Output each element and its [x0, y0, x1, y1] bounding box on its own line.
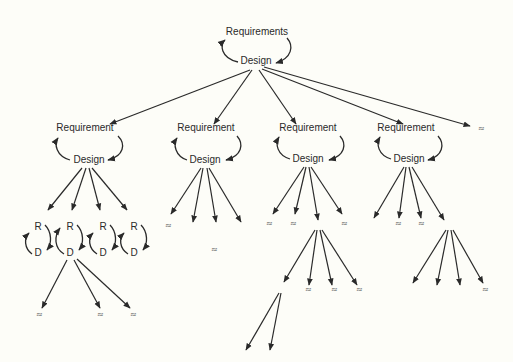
continuation-icon: ≈ [97, 310, 104, 319]
small-cycle-4: R D [121, 221, 147, 258]
node-requirement-label: Requirement [279, 122, 336, 133]
svg-text:R: R [130, 221, 137, 232]
node-design-label: Design [292, 153, 323, 164]
root-node: Requirements Design [222, 26, 291, 66]
node-design-label: Design [189, 154, 220, 165]
svg-text:D: D [99, 247, 106, 258]
continuation-icon: ≈ [395, 219, 402, 228]
cycle-arrow-right-icon [276, 38, 291, 63]
node-design-label: Design [73, 154, 104, 165]
continuation-icon: ≈ [478, 124, 485, 133]
svg-text:D: D [130, 247, 137, 258]
level2-node-2: Requirement Design [171, 122, 241, 222]
continuation-icon: ≈ [418, 219, 425, 228]
small-cycle-2: R D [56, 221, 83, 258]
continuation-icon: ≈ [290, 219, 297, 228]
cycle2-edges [42, 259, 130, 308]
continuation-icon: ≈ [331, 285, 338, 294]
continuation-icon: ≈ [266, 219, 273, 228]
root-requirements-label: Requirements [226, 26, 288, 37]
node3-sub-edges [284, 230, 357, 285]
deep-edges [246, 293, 281, 350]
cycle-arrow-left-icon [222, 40, 238, 62]
continuation-icon: ≈ [36, 310, 43, 319]
level2-node-1: Requirement Design [48, 122, 127, 210]
node4-sub-edges [413, 230, 483, 285]
node-requirement-label: Requirement [377, 122, 434, 133]
continuation-icon: ≈ [341, 219, 348, 228]
svg-text:R: R [99, 221, 106, 232]
level2-node-4: Requirement Design [374, 122, 444, 220]
root-design-label: Design [240, 55, 271, 66]
small-cycle-3: R D [90, 221, 116, 258]
small-cycle-1: R D [26, 221, 51, 258]
node-requirement-label: Requirement [56, 122, 113, 133]
svg-text:R: R [34, 221, 41, 232]
svg-text:D: D [34, 247, 41, 258]
root-edges [110, 67, 470, 126]
continuation-icon: ≈ [211, 245, 218, 254]
continuation-icon: ≈ [356, 285, 363, 294]
requirements-design-tree: Requirements Design ≈ Requirement Design… [0, 0, 513, 362]
svg-text:D: D [66, 247, 73, 258]
continuation-icon: ≈ [130, 310, 137, 319]
continuation-icon: ≈ [482, 285, 489, 294]
continuation-icon: ≈ [165, 221, 172, 230]
svg-text:R: R [66, 221, 73, 232]
node-requirement-label: Requirement [177, 122, 234, 133]
level2-node-3: Requirement Design [273, 122, 344, 220]
continuation-icon: ≈ [305, 285, 312, 294]
node-design-label: Design [393, 153, 424, 164]
